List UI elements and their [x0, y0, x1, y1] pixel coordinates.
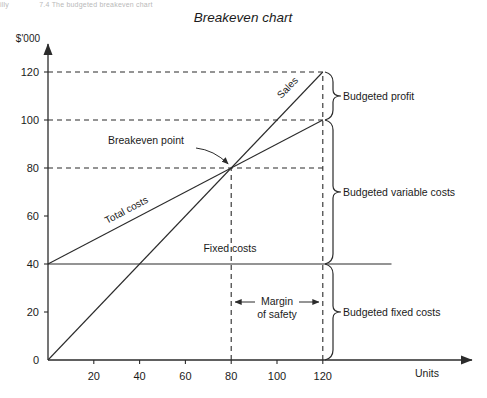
y-tick-label-60: 60 [27, 210, 39, 222]
breakeven-chart: Breakeven chart$'000Units020406080100120… [0, 0, 487, 398]
series-label-total-costs: Total costs [103, 194, 150, 226]
chart-title: Breakeven chart [194, 10, 294, 25]
y-tick-label-100: 100 [21, 114, 39, 126]
x-axis-label: Units [415, 367, 439, 379]
breakeven-point-label: Breakeven point [108, 134, 184, 146]
y-tick-label-80: 80 [27, 162, 39, 174]
budgeted-fixed-costs-label: Budgeted fixed costs [343, 306, 440, 318]
x-tick-label-20: 20 [88, 370, 100, 382]
chart-canvas: Breakeven chart$'000Units020406080100120… [0, 0, 487, 398]
y-tick-label-40: 40 [27, 258, 39, 270]
series-label-fixed-costs: Fixed costs [203, 242, 256, 254]
series-line-total-costs [48, 120, 323, 264]
x-tick-label-40: 40 [133, 370, 145, 382]
breakeven-point-leader [196, 148, 228, 164]
budgeted-variable-costs-label: Budgeted variable costs [343, 186, 455, 198]
brace-budgeted-variable-costs [325, 120, 341, 264]
margin-of-safety-label-line2: of safety [257, 308, 297, 320]
budgeted-profit-label: Budgeted profit [343, 90, 414, 102]
margin-of-safety-label-line1: Margin [261, 295, 293, 307]
x-tick-label-80: 80 [225, 370, 237, 382]
x-tick-label-120: 120 [314, 370, 332, 382]
y-tick-label-120: 120 [21, 66, 39, 78]
brace-budgeted-fixed-costs [325, 264, 341, 360]
x-tick-label-60: 60 [179, 370, 191, 382]
x-tick-label-100: 100 [268, 370, 286, 382]
series-label-sales: Sales [275, 75, 300, 101]
y-tick-label-20: 20 [27, 306, 39, 318]
y-tick-label-0: 0 [33, 354, 39, 366]
y-axis-label: $'000 [16, 33, 41, 44]
brace-budgeted-profit [325, 72, 341, 120]
